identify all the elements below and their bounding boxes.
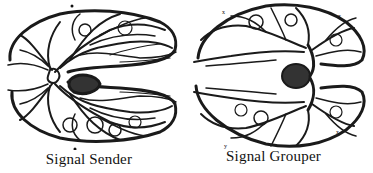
- dendritic-network-illustration: [0, 0, 186, 150]
- panel-signal-sender: Signal Sender: [0, 0, 186, 173]
- caption-signal-grouper: Signal Grouper: [180, 148, 367, 165]
- caption-signal-sender: Signal Sender: [0, 151, 182, 168]
- svg-text:x: x: [338, 13, 341, 19]
- svg-text:x: x: [336, 129, 339, 135]
- dendritic-network-illustration: x x x y: [186, 0, 373, 150]
- svg-text:x: x: [222, 9, 225, 15]
- panel-signal-grouper: x x x y Signal Grouper: [186, 0, 373, 173]
